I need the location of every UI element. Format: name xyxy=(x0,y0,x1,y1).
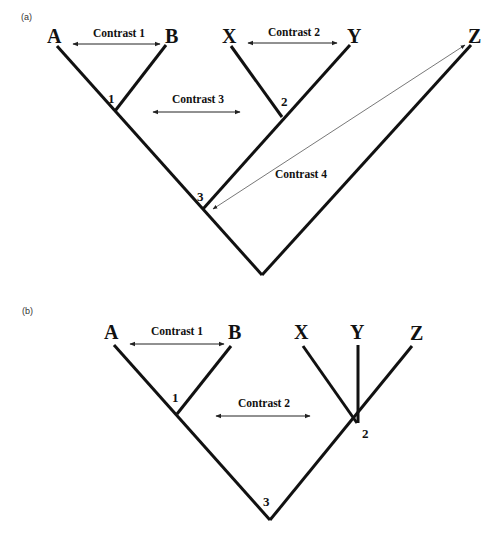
node-1-label: 1 xyxy=(108,91,115,106)
panel-b-label: (b) xyxy=(22,306,33,316)
branch-y xyxy=(203,45,350,209)
node-3-label: 3 xyxy=(197,189,204,204)
panel-a-label: (a) xyxy=(21,12,32,22)
branch-a xyxy=(114,345,270,520)
panel-b: (b) A B X Y Z 1 2 3 Contrast 1 Contrast … xyxy=(22,306,423,520)
contrast-2-label: Contrast 2 xyxy=(268,26,320,38)
taxon-a: A xyxy=(47,25,62,47)
node-2-label: 2 xyxy=(362,426,369,441)
taxon-y: Y xyxy=(350,321,365,343)
taxon-x: X xyxy=(222,25,237,47)
branch-z xyxy=(270,346,412,520)
taxon-b: B xyxy=(228,321,241,343)
branch-b xyxy=(177,346,231,414)
branch-a xyxy=(57,46,262,275)
branch-z xyxy=(262,45,471,275)
taxon-y: Y xyxy=(347,25,362,47)
contrast-4-arrow xyxy=(213,45,465,209)
taxon-a: A xyxy=(104,321,119,343)
branch-b xyxy=(115,45,166,111)
branch-x xyxy=(231,46,282,117)
contrast-3-label: Contrast 3 xyxy=(172,93,224,105)
contrast-1-label: Contrast 1 xyxy=(151,325,203,337)
taxon-b: B xyxy=(165,25,178,47)
taxon-z: Z xyxy=(468,25,481,47)
contrast-1-label: Contrast 1 xyxy=(93,27,145,39)
contrast-2-label: Contrast 2 xyxy=(238,397,290,409)
contrast-4-label: Contrast 4 xyxy=(275,168,327,180)
panel-a: (a) A B X Y Z 1 2 3 Contrast 1 Contrast … xyxy=(21,12,481,275)
node-1-label: 1 xyxy=(172,390,179,405)
node-3-label: 3 xyxy=(263,494,270,509)
taxon-x: X xyxy=(294,321,309,343)
branch-x xyxy=(303,346,357,423)
phylogeny-figure: (a) A B X Y Z 1 2 3 Contrast 1 Contrast … xyxy=(0,0,500,536)
node-2-label: 2 xyxy=(281,94,288,109)
taxon-z: Z xyxy=(410,322,423,344)
